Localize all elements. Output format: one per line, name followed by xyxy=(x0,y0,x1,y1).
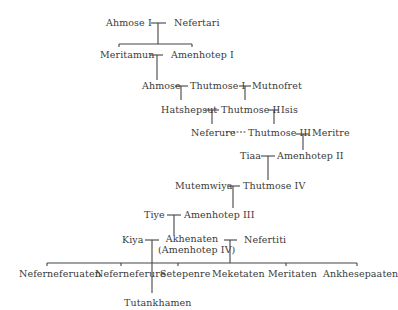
person-akhenaten: Akhenaten (Amenhotep IV) xyxy=(158,233,226,255)
child-neferneferuaten: Neferneferuaten xyxy=(19,268,101,279)
child-neferneferure: Neferneferure xyxy=(95,268,166,279)
person-amenhotep-i: Amenhotep I xyxy=(171,49,234,60)
person-ahmose: Ahmose xyxy=(142,80,181,91)
person-meritre: Meritre xyxy=(312,127,350,138)
person-thutmose-iii: Thutmose III xyxy=(248,127,311,138)
person-isis: Isis xyxy=(281,104,298,115)
child-meketaten: Meketaten xyxy=(212,268,265,279)
person-neferure: Neferure xyxy=(191,127,236,138)
person-meritamun: Meritamun xyxy=(100,49,155,60)
person-thutmose-iv: Thutmose IV xyxy=(243,180,305,191)
child-ankhesepaaten: Ankhesepaaten xyxy=(323,268,398,279)
person-tiaa: Tiaa xyxy=(240,150,261,161)
child-meritaten: Meritaten xyxy=(268,268,317,279)
person-amenhotep-iii: Amenhotep III xyxy=(184,209,255,220)
person-hatshepsut: Hatshepsut xyxy=(161,104,217,115)
person-amenhotep-ii: Amenhotep II xyxy=(277,150,344,161)
akhenaten-alt-name: (Amenhotep IV) xyxy=(158,244,226,255)
person-thutmose-i: Thutmose I xyxy=(190,80,245,91)
child-setepenre: Setepenre xyxy=(160,268,210,279)
person-thutmose-ii: Thutmose II xyxy=(221,104,280,115)
person-mutemwiya: Mutemwiya xyxy=(175,180,232,191)
akhenaten-name: Akhenaten xyxy=(158,233,226,244)
person-mutnofret: Mutnofret xyxy=(252,80,302,91)
person-tutankhamen: Tutankhamen xyxy=(124,297,191,308)
person-nefertiti: Nefertiti xyxy=(244,234,286,245)
person-nefertari: Nefertari xyxy=(174,17,220,28)
person-kiya: Kiya xyxy=(122,234,144,245)
person-tiye: Tiye xyxy=(144,209,165,220)
person-ahmose-i: Ahmose I xyxy=(106,17,152,28)
